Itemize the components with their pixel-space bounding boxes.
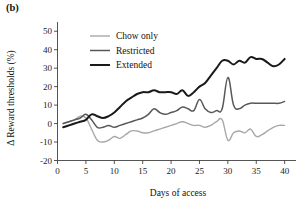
series-line-chow-only bbox=[63, 116, 284, 142]
y-tick-label--10: -10 bbox=[40, 137, 52, 147]
y-tick-label-50: 50 bbox=[43, 26, 53, 36]
x-tick-label-20: 20 bbox=[167, 166, 177, 176]
chart-legend: Chow onlyRestrictedExtended bbox=[90, 31, 158, 70]
legend-label-extended: Extended bbox=[116, 60, 152, 70]
x-tick-label-0: 0 bbox=[55, 166, 60, 176]
figure-panel-b: (b) -20-1001020304050 0510152025303540 D… bbox=[0, 0, 304, 203]
x-tick-label-40: 40 bbox=[280, 166, 290, 176]
y-tick-label-10: 10 bbox=[43, 100, 53, 110]
x-tick-label-10: 10 bbox=[110, 166, 120, 176]
reward-threshold-line-chart: -20-1001020304050 0510152025303540 Days … bbox=[0, 0, 304, 203]
x-tick-label-25: 25 bbox=[195, 166, 205, 176]
data-series-group bbox=[63, 57, 284, 142]
x-axis-tick-labels: 0510152025303540 bbox=[55, 166, 289, 176]
y-axis-ticks bbox=[54, 31, 58, 160]
x-axis-ticks bbox=[58, 161, 285, 165]
x-tick-label-5: 5 bbox=[84, 166, 89, 176]
x-axis-title: Days of access bbox=[150, 188, 207, 198]
y-tick-label-20: 20 bbox=[43, 82, 53, 92]
y-tick-label-0: 0 bbox=[48, 119, 53, 129]
y-tick-label-40: 40 bbox=[43, 45, 53, 55]
y-tick-label--20: -20 bbox=[40, 156, 52, 166]
y-tick-label-30: 30 bbox=[43, 63, 53, 73]
x-tick-label-30: 30 bbox=[223, 166, 233, 176]
series-line-extended bbox=[63, 57, 284, 127]
legend-label-chow-only: Chow only bbox=[116, 31, 158, 41]
x-tick-label-15: 15 bbox=[138, 166, 148, 176]
y-axis-title: Δ Reward thresholds (%) bbox=[6, 50, 17, 146]
y-axis-tick-labels: -20-1001020304050 bbox=[40, 26, 53, 165]
x-tick-label-35: 35 bbox=[252, 166, 262, 176]
series-line-restricted bbox=[63, 77, 284, 128]
legend-label-restricted: Restricted bbox=[116, 46, 155, 56]
